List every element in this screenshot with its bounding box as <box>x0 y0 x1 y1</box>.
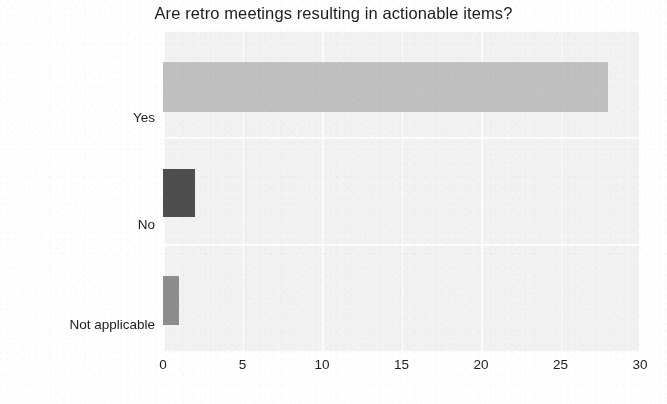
bar-yes <box>163 62 608 112</box>
y-axis-tick-label: No <box>5 217 155 232</box>
chart-figure: Are retro meetings resulting in actionab… <box>0 0 667 404</box>
x-axis-tick-label: 5 <box>223 357 263 372</box>
plot-area <box>163 30 640 352</box>
chart-title: Are retro meetings resulting in actionab… <box>0 4 667 23</box>
y-axis-tick-label: Yes <box>5 110 155 125</box>
bar-no <box>163 169 195 217</box>
gridline-horizontal <box>163 30 640 32</box>
x-axis: 051015202530 <box>163 357 640 381</box>
x-axis-tick-label: 15 <box>382 357 422 372</box>
x-axis-tick-label: 25 <box>541 357 581 372</box>
y-axis-tick-label: Not applicable <box>5 317 155 332</box>
gridline-vertical <box>639 30 641 352</box>
x-axis-tick-label: 0 <box>143 357 183 372</box>
bar-not-applicable <box>163 276 179 325</box>
x-axis-tick-label: 20 <box>461 357 501 372</box>
x-axis-tick-label: 10 <box>302 357 342 372</box>
y-axis: Yes No Not applicable <box>0 30 155 352</box>
gridline-horizontal <box>163 244 640 246</box>
x-axis-tick-label: 30 <box>620 357 660 372</box>
gridline-horizontal <box>163 137 640 139</box>
gridline-horizontal <box>163 351 640 353</box>
